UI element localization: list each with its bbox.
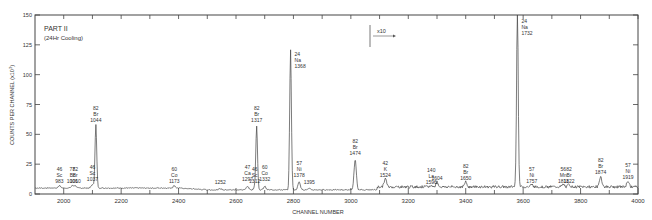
x-axis-label: CHANNEL NUMBER: [292, 209, 343, 215]
chart-subtitle: (24Hr Cooling): [44, 35, 83, 41]
svg-text:1037: 1037: [87, 176, 98, 182]
svg-text:1822: 1822: [564, 178, 575, 184]
gamma-spectrum-chart: 2000220024002600280030003200340036003800…: [0, 0, 652, 220]
scale-label: x10: [377, 28, 386, 34]
peak-label: 24Na1732: [521, 18, 532, 36]
y-tick-label: 50: [26, 131, 32, 137]
svg-text:983: 983: [55, 178, 64, 184]
x-tick-label: 2600: [229, 198, 243, 204]
svg-text:1524: 1524: [380, 172, 391, 178]
svg-text:1919: 1919: [622, 174, 633, 180]
tick-marks: 2000220024002600280030003200340036003800…: [23, 12, 646, 204]
peak-label: 60Co1332: [259, 164, 270, 182]
x-tick-label: 3600: [516, 198, 530, 204]
peak-label: 57Ni1378: [294, 160, 305, 178]
x-tick-label: 4000: [631, 198, 645, 204]
peak-label: 82Br1474: [350, 138, 361, 156]
svg-text:1332: 1332: [259, 176, 270, 182]
y-tick-label: 100: [23, 72, 32, 78]
svg-text:1378: 1378: [294, 172, 305, 178]
peak-label: 46Sc1037: [87, 164, 98, 182]
peak-label: 60Co1173: [169, 166, 180, 184]
y-tick-label: 125: [23, 42, 32, 48]
peak-label: 57Ni1919: [622, 162, 633, 180]
peak-label: 82Br1650: [460, 163, 471, 181]
peak-label: 42K1524: [380, 160, 391, 178]
chart-title: PART II: [44, 25, 68, 32]
x-tick-label: 3200: [402, 198, 416, 204]
svg-text:1173: 1173: [169, 178, 180, 184]
svg-text:1474: 1474: [350, 150, 361, 156]
svg-text:1650: 1650: [460, 175, 471, 181]
x-tick-label: 2200: [114, 198, 128, 204]
svg-text:1010: 1010: [70, 178, 81, 184]
svg-text:1317: 1317: [251, 117, 262, 123]
svg-text:1252: 1252: [215, 179, 226, 185]
y-tick-label: 25: [26, 161, 32, 167]
x-tick-label: 3800: [574, 198, 588, 204]
peak-label: 46Sc983: [55, 166, 64, 184]
x-tick-label: 2000: [57, 198, 71, 204]
y-axis-label: COUNTS PER CHANNEL (x103): [8, 65, 15, 145]
peak-label: 1395: [304, 179, 315, 185]
scale-marker: x10: [370, 25, 396, 47]
peak-label: 1252: [215, 179, 226, 185]
y-tick-label: 75: [26, 102, 32, 108]
x-tick-label: 3000: [344, 198, 358, 204]
peak-label: 1604: [431, 175, 442, 181]
x-tick-label: 2800: [287, 198, 301, 204]
peak-labels: 46Sc98377Br100682Br101046Sc103782Br10446…: [55, 18, 633, 185]
y-tick-label: 0: [29, 191, 32, 197]
svg-text:1395: 1395: [304, 179, 315, 185]
svg-text:1044: 1044: [90, 117, 101, 123]
svg-text:1757: 1757: [526, 178, 537, 184]
svg-text:1604: 1604: [431, 175, 442, 181]
peak-label: 82Br1044: [90, 105, 101, 123]
svg-text:1874: 1874: [595, 169, 606, 175]
peak-label: 82Br1317: [251, 105, 262, 123]
x-tick-label: 2400: [172, 198, 186, 204]
peak-label: 57Ni1757: [526, 166, 537, 184]
y-tick-label: 150: [23, 12, 32, 18]
x-tick-label: 3400: [459, 198, 473, 204]
axes: [35, 15, 638, 194]
svg-text:1732: 1732: [521, 30, 532, 36]
spectrum-trace: [35, 15, 638, 190]
peak-label: 82Br1874: [595, 157, 606, 175]
peak-label: 24Na1368: [295, 51, 306, 69]
svg-text:1368: 1368: [295, 63, 306, 69]
